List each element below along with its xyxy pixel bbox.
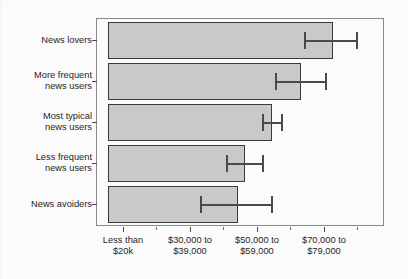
x-axis-label-70000-to-79000: $70,000 to $79,000 <box>278 235 370 257</box>
error-bar-cap-high <box>356 32 358 49</box>
y-axis-tick <box>92 122 97 123</box>
error-bar-line <box>262 122 283 124</box>
x-axis-minor-tick <box>290 227 291 230</box>
y-axis-label-news-avoiders: News avoiders <box>31 199 92 210</box>
error-bar-line <box>200 204 273 206</box>
x-axis-minor-tick <box>156 227 157 230</box>
horizontal-bar-chart: News lovers More frequent news users Mos… <box>0 0 408 279</box>
y-axis-tick <box>92 81 97 82</box>
y-axis-label-more-frequent-news-users: More frequent news users <box>34 70 92 91</box>
error-bar-cap-low <box>200 196 202 213</box>
x-axis-minor-tick <box>223 227 224 230</box>
error-bar-line <box>304 40 358 42</box>
x-axis-minor-tick <box>357 227 358 230</box>
error-bar-cap-low <box>304 32 306 49</box>
bar-most-typical-news-users <box>108 104 272 141</box>
y-axis-label-most-typical-news-users: Most typical news users <box>43 111 92 132</box>
error-bar-cap-high <box>271 196 273 213</box>
error-bar-cap-high <box>325 73 327 90</box>
error-bar-line <box>226 163 264 165</box>
y-axis-label-news-lovers: News lovers <box>41 35 92 46</box>
error-bar-cap-low <box>226 155 228 172</box>
bar-more-frequent-news-users <box>108 63 301 100</box>
error-bar-cap-low <box>262 114 264 131</box>
bar-less-frequent-news-users <box>108 145 245 182</box>
y-axis-tick <box>92 204 97 205</box>
y-axis-tick <box>92 163 97 164</box>
x-axis-tick <box>257 227 258 232</box>
error-bar-cap-high <box>262 155 264 172</box>
y-axis-tick <box>92 40 97 41</box>
x-axis-tick <box>324 227 325 232</box>
error-bar-cap-high <box>281 114 283 131</box>
x-axis-tick <box>123 227 124 232</box>
bar-news-lovers <box>108 22 333 59</box>
x-axis-tick <box>190 227 191 232</box>
error-bar-line <box>275 81 327 83</box>
error-bar-cap-low <box>275 73 277 90</box>
y-axis-label-less-frequent-news-users: Less frequent news users <box>36 152 92 173</box>
